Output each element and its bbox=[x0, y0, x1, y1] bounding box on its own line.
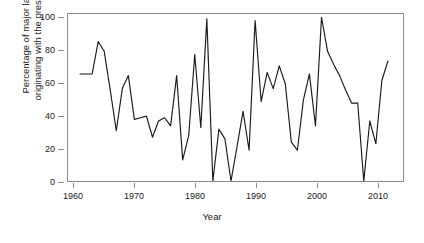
y-tick-label-100: 100 bbox=[40, 13, 55, 22]
y-tick-mark-20 bbox=[58, 149, 64, 150]
x-tick-label-1970: 1970 bbox=[124, 191, 144, 201]
y-tick-mark-80 bbox=[58, 50, 64, 51]
x-tick-mark-1970 bbox=[134, 183, 135, 188]
data-series-line bbox=[68, 14, 403, 181]
x-tick-label-1960: 1960 bbox=[63, 191, 83, 201]
y-tick-label-20: 20 bbox=[45, 145, 55, 154]
x-tick-mark-2000 bbox=[317, 183, 318, 188]
x-tick-label-2010: 2010 bbox=[368, 191, 388, 201]
x-tick-label-1990: 1990 bbox=[246, 191, 266, 201]
y-tick-mark-60 bbox=[58, 83, 64, 84]
y-tick-label-80: 80 bbox=[45, 46, 55, 55]
x-axis-title: Year bbox=[0, 211, 424, 223]
y-tick-label-40: 40 bbox=[45, 112, 55, 121]
line-chart-figure: Percentage of major laws originating wit… bbox=[0, 0, 424, 243]
y-tick-mark-100 bbox=[58, 17, 64, 18]
plot-area bbox=[67, 13, 404, 182]
x-tick-mark-1980 bbox=[195, 183, 196, 188]
x-tick-label-1980: 1980 bbox=[185, 191, 205, 201]
y-tick-mark-40 bbox=[58, 116, 64, 117]
y-axis-title-line-1: Percentage of major laws bbox=[20, 0, 32, 140]
x-tick-mark-1960 bbox=[73, 183, 74, 188]
x-tick-label-2000: 2000 bbox=[307, 191, 327, 201]
y-tick-label-60: 60 bbox=[45, 79, 55, 88]
x-axis: 1960 1970 1980 1990 2000 2010 Year bbox=[0, 182, 424, 243]
x-tick-mark-2010 bbox=[378, 183, 379, 188]
x-tick-mark-1990 bbox=[256, 183, 257, 188]
